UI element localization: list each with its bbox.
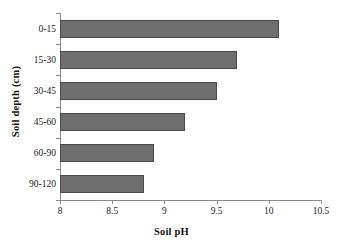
x-axis-tick-label: 8.5 xyxy=(106,206,118,216)
bar-chart: 0-1515-3030-4545-6060-9090-120 88.599.51… xyxy=(0,0,343,248)
y-axis-labels: 0-1515-3030-4545-6060-9090-120 xyxy=(0,13,56,200)
x-axis-tick-label: 8 xyxy=(58,206,63,216)
bar-row xyxy=(60,13,279,44)
bar-row xyxy=(60,138,154,169)
x-axis-tick-label: 9.5 xyxy=(211,206,223,216)
bar-row xyxy=(60,75,217,106)
bar xyxy=(60,144,154,162)
x-axis-tick xyxy=(164,200,165,204)
x-axis-tick xyxy=(217,200,218,204)
bar-row xyxy=(60,169,144,200)
x-axis-tick xyxy=(112,200,113,204)
x-axis-tick xyxy=(269,200,270,204)
bar xyxy=(60,20,279,38)
plot-area xyxy=(60,13,321,200)
y-axis-tick-label: 0-15 xyxy=(4,24,56,34)
x-axis-tick xyxy=(321,200,322,204)
y-axis-title: Soil depth (cm) xyxy=(10,42,21,162)
bar-row xyxy=(60,107,185,138)
bar xyxy=(60,113,185,131)
x-axis-tick xyxy=(60,200,61,204)
bar xyxy=(60,51,237,69)
bar xyxy=(60,82,217,100)
x-axis-tick-label: 10.5 xyxy=(313,206,330,216)
bar-series xyxy=(60,13,321,200)
x-axis-tick-label: 9 xyxy=(162,206,167,216)
x-axis-line xyxy=(60,200,322,201)
x-axis-title: Soil pH xyxy=(0,226,343,237)
y-axis-tick-label: 90-120 xyxy=(4,179,56,189)
bar-row xyxy=(60,44,237,75)
x-axis-tick-label: 10 xyxy=(264,206,274,216)
bar xyxy=(60,175,144,193)
